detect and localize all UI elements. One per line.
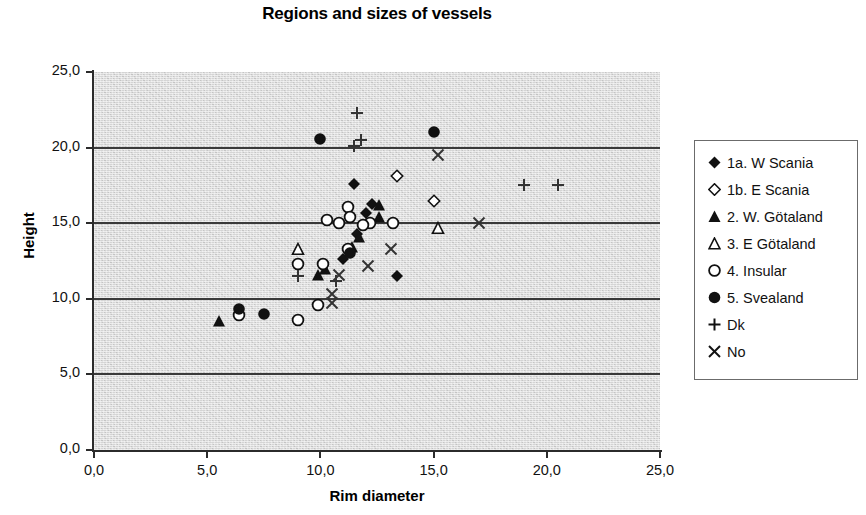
legend-item-0: 1a. W Scania — [701, 149, 857, 176]
y-tick — [86, 373, 94, 375]
x-tick — [433, 450, 435, 458]
data-point-cross — [361, 259, 374, 272]
gridline — [94, 298, 660, 300]
open-triangle-icon — [701, 237, 727, 250]
data-point-filled-triangle — [373, 199, 386, 212]
data-point-open-circle — [316, 258, 329, 271]
data-point-filled-triangle — [212, 315, 225, 328]
plot-area — [94, 72, 660, 450]
data-point-open-triangle — [432, 221, 445, 234]
legend-item-2: 2. W. Götaland — [701, 203, 857, 230]
legend-item-5: 5. Svealand — [701, 284, 857, 311]
y-tick-label: 25,0 — [10, 62, 80, 78]
x-tick-label: 25,0 — [625, 462, 695, 478]
data-point-cross — [472, 217, 485, 230]
y-tick — [86, 71, 94, 73]
y-tick — [86, 222, 94, 224]
x-tick — [659, 450, 661, 458]
data-point-filled-diamond — [391, 270, 404, 283]
x-axis-line — [92, 450, 662, 452]
data-point-open-diamond — [391, 170, 404, 183]
legend-item-label: 1a. W Scania — [727, 155, 813, 171]
data-point-open-circle — [343, 211, 356, 224]
scatter-chart: Regions and sizes of vessels 0,05,010,01… — [0, 0, 866, 515]
data-point-plus — [291, 270, 304, 283]
data-point-cross — [432, 149, 445, 162]
y-axis-line — [92, 70, 94, 452]
legend-item-label: 5. Svealand — [727, 290, 804, 306]
legend-item-4: 4. Insular — [701, 257, 857, 284]
data-point-open-circle — [312, 298, 325, 311]
data-point-plus — [350, 106, 363, 119]
filled-diamond-icon — [701, 156, 727, 169]
legend-item-label: 3. E Götaland — [727, 236, 816, 252]
data-point-plus — [552, 179, 565, 192]
y-tick — [86, 298, 94, 300]
x-tick — [93, 450, 95, 458]
data-point-plus — [348, 140, 361, 153]
plus-icon — [701, 318, 727, 331]
cross-icon — [701, 345, 727, 358]
x-tick-label: 5,0 — [172, 462, 242, 478]
open-diamond-icon — [701, 183, 727, 196]
y-tick-label: 20,0 — [10, 138, 80, 154]
legend-item-label: 1b. E Scania — [727, 182, 809, 198]
legend-item-label: 2. W. Götaland — [727, 209, 823, 225]
chart-title: Regions and sizes of vessels — [94, 4, 660, 24]
x-tick — [546, 450, 548, 458]
y-tick — [86, 147, 94, 149]
legend-item-1: 1b. E Scania — [701, 176, 857, 203]
x-tick — [319, 450, 321, 458]
legend-item-7: No — [701, 338, 857, 365]
filled-triangle-icon — [701, 210, 727, 223]
data-point-cross — [332, 268, 345, 281]
data-point-open-circle — [357, 218, 370, 231]
data-point-filled-circle — [314, 132, 327, 145]
data-point-filled-diamond — [348, 177, 361, 190]
legend-item-label: 4. Insular — [727, 263, 787, 279]
chart-legend: 1a. W Scania1b. E Scania2. W. Götaland3.… — [694, 140, 858, 380]
legend-item-6: Dk — [701, 311, 857, 338]
data-point-open-triangle — [291, 242, 304, 255]
data-point-filled-circle — [257, 307, 270, 320]
data-point-open-circle — [291, 258, 304, 271]
plot-background-texture — [94, 72, 660, 450]
data-point-filled-circle — [343, 247, 356, 260]
data-point-plus — [518, 179, 531, 192]
legend-item-label: No — [727, 344, 746, 360]
data-point-filled-circle — [232, 303, 245, 316]
data-point-filled-circle — [427, 126, 440, 139]
gridline — [94, 373, 660, 375]
open-circle-icon — [701, 264, 727, 277]
gridline — [94, 147, 660, 149]
x-tick-label: 15,0 — [399, 462, 469, 478]
legend-item-label: Dk — [727, 317, 745, 333]
y-tick-label: 0,0 — [10, 440, 80, 456]
x-tick-label: 0,0 — [59, 462, 129, 478]
data-point-cross — [384, 242, 397, 255]
legend-item-3: 3. E Götaland — [701, 230, 857, 257]
x-tick — [206, 450, 208, 458]
data-point-open-circle — [291, 313, 304, 326]
x-tick-label: 20,0 — [512, 462, 582, 478]
x-axis-title: Rim diameter — [94, 487, 660, 504]
data-point-open-diamond — [427, 194, 440, 207]
x-tick-label: 10,0 — [285, 462, 355, 478]
data-point-open-circle — [386, 217, 399, 230]
filled-circle-icon — [701, 291, 727, 304]
y-axis-title: Height — [20, 176, 37, 296]
y-tick-label: 5,0 — [10, 364, 80, 380]
data-point-cross — [325, 297, 338, 310]
